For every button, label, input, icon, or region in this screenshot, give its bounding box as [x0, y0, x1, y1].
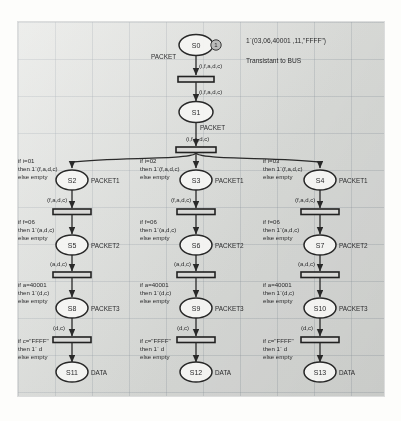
guard-s8-l2: then 1`(d,c): [18, 289, 49, 296]
place-s1-label: S1: [192, 109, 201, 116]
arc-label-s0-t0: (i,f,a,d,c): [199, 63, 222, 69]
guard-s8-l1: if a=40001: [18, 281, 47, 288]
place-s5-label: S5: [68, 242, 77, 249]
port-label-s10: PACKET3: [339, 305, 368, 312]
guard-s7-l3: else empty: [263, 234, 293, 241]
place-s8[interactable]: S8: [56, 298, 88, 318]
port-label-s7: PACKET2: [339, 242, 368, 249]
guard-s2-l1: if i=01: [18, 157, 35, 164]
arc-label-s2-t2: (f,a,d,c): [47, 197, 67, 203]
guard-s9-l2: then 1`(d,c): [140, 289, 171, 296]
transition-t4[interactable]: [53, 337, 91, 343]
arc-label-s6-t6: (a,d,c): [174, 261, 191, 267]
place-s10-label: S10: [314, 305, 327, 312]
place-s7[interactable]: S7: [304, 235, 336, 255]
port-label-s12: DATA: [215, 369, 232, 376]
place-s2-label: S2: [68, 177, 77, 184]
guard-s3-l3: else empty: [140, 173, 170, 180]
column-left: S2 PACKET1 if i=01 then 1`(f,a,d,c) else…: [18, 157, 120, 382]
port-label-s2: PACKET1: [91, 177, 120, 184]
place-s7-label: S7: [316, 242, 325, 249]
transition-t6[interactable]: [177, 272, 215, 278]
place-s12-label: S12: [190, 369, 203, 376]
place-s2[interactable]: S2: [56, 170, 88, 190]
place-s3-label: S3: [192, 177, 201, 184]
place-s9-label: S9: [192, 305, 201, 312]
transition-t10[interactable]: [301, 337, 339, 343]
guard-s2-l2: then 1`(f,a,d,c): [18, 165, 58, 172]
place-s8-label: S8: [68, 305, 77, 312]
guard-s13-l2: then 1` d: [263, 345, 287, 352]
petri-net-graph: S0 1 PACKET 1`(03,06,40001 ,11,"FFFF") T…: [0, 0, 401, 421]
transition-t3[interactable]: [53, 272, 91, 278]
guard-s11-l3: else empty: [18, 353, 48, 360]
place-s12[interactable]: S12: [180, 362, 212, 382]
transition-t9[interactable]: [301, 272, 339, 278]
guard-s4-l1: if i=03: [263, 157, 280, 164]
guard-s12-l3: else empty: [140, 353, 170, 360]
place-s4[interactable]: S4: [304, 170, 336, 190]
place-s10[interactable]: S10: [304, 298, 336, 318]
port-label-s13: DATA: [339, 369, 356, 376]
guard-s3-l2: then 1`(f,a,d,c): [140, 165, 180, 172]
port-label-s1: PACKET: [200, 124, 225, 131]
place-s0-label: S0: [192, 42, 201, 49]
diagram-canvas: S0 1 PACKET 1`(03,06,40001 ,11,"FFFF") T…: [0, 0, 401, 421]
arc-label-s7-t9: (a,d,c): [298, 261, 315, 267]
column-middle: S3 PACKET1 if i=02 then 1`(f,a,d,c) else…: [140, 157, 244, 382]
place-s11[interactable]: S11: [56, 362, 88, 382]
guard-s3-l1: if i=02: [140, 157, 157, 164]
guard-s6-l2: then 1`(a,d,c): [140, 226, 176, 233]
guard-s6-l3: else empty: [140, 234, 170, 241]
arc-label-s8-t4: (d,c): [53, 325, 65, 331]
transition-t5[interactable]: [177, 209, 215, 215]
guard-s5-l3: else empty: [18, 234, 48, 241]
guard-s5-l2: then 1`(a,d,c): [18, 226, 54, 233]
arc-label-s1-t1: (i,f,a,d,c): [186, 136, 209, 142]
transition-t1[interactable]: [176, 147, 216, 153]
guard-s4-l3: else empty: [263, 173, 293, 180]
column-right: S4 PACKET1 if i=03 then 1`(f,a,d,c) else…: [263, 157, 368, 382]
guard-s12-l1: if c="FFFF": [140, 337, 171, 344]
arc-label-s4-t8: (f,a,d,c): [295, 197, 315, 203]
port-label-s11: DATA: [91, 369, 108, 376]
guard-s7-l2: then 1`(a,d,c): [263, 226, 299, 233]
transition-t2[interactable]: [53, 209, 91, 215]
guard-s13-l1: if c="FFFF": [263, 337, 294, 344]
place-s0[interactable]: S0: [179, 35, 213, 56]
guard-s5-l1: if f=06: [18, 218, 35, 225]
arc-label-s3-t5: (f,a,d,c): [171, 197, 191, 203]
transition-t0[interactable]: [178, 77, 214, 83]
guard-s2-l3: else empty: [18, 173, 48, 180]
initial-marking-text: 1`(03,06,40001 ,11,"FFFF"): [246, 37, 326, 45]
port-label-s9: PACKET3: [215, 305, 244, 312]
guard-s4-l2: then 1`(f,a,d,c): [263, 165, 303, 172]
place-s6-label: S6: [192, 242, 201, 249]
place-s3[interactable]: S3: [180, 170, 212, 190]
arc-label-t0-s1: (i,f,a,d,c): [199, 89, 222, 95]
place-s4-label: S4: [316, 177, 325, 184]
transition-t8[interactable]: [301, 209, 339, 215]
port-label-s4: PACKET1: [339, 177, 368, 184]
port-label-s5: PACKET2: [91, 242, 120, 249]
port-label-s3: PACKET1: [215, 177, 244, 184]
place-s1[interactable]: S1: [179, 102, 213, 123]
guard-s10-l3: else empty: [263, 297, 293, 304]
guard-s7-l1: if f=06: [263, 218, 280, 225]
guard-s10-l1: if a=40001: [263, 281, 292, 288]
transition-t7[interactable]: [177, 337, 215, 343]
guard-s6-l1: if f=06: [140, 218, 157, 225]
arc-label-s5-t3: (a,d,c): [50, 261, 67, 267]
port-label-s8: PACKET3: [91, 305, 120, 312]
guard-s8-l3: else empty: [18, 297, 48, 304]
place-s5[interactable]: S5: [56, 235, 88, 255]
place-s11-label: S11: [66, 369, 78, 376]
place-s9[interactable]: S9: [180, 298, 212, 318]
place-s13[interactable]: S13: [304, 362, 336, 382]
token-badge-s0: 1: [211, 40, 221, 50]
guard-s9-l1: if a=40001: [140, 281, 169, 288]
arc-label-s10-t10: (d,c): [301, 325, 313, 331]
place-s13-label: S13: [314, 369, 327, 376]
arc-label-s9-t7: (d,c): [177, 325, 189, 331]
place-s6[interactable]: S6: [180, 235, 212, 255]
